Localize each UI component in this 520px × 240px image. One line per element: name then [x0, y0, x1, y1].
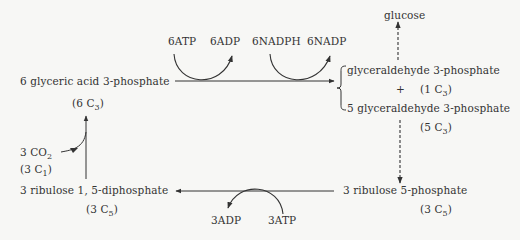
label-6adp: 6ADP: [210, 35, 240, 47]
label-co2-carbon: (3 C1): [20, 163, 52, 175]
label-rudp-carbon: (3 C5): [86, 203, 118, 215]
label-pga: 6 glyceric acid 3-phosphate: [20, 75, 170, 87]
label-ru5p: 3 ribulose 5-phosphate: [343, 184, 467, 196]
label-ru5p-carbon: (3 C5): [420, 203, 452, 215]
label-3adp: 3ADP: [211, 214, 241, 226]
label-plus: +: [396, 83, 405, 95]
label-g3p-five-carbon: (5 C3): [420, 121, 452, 133]
label-glucose: glucose: [384, 9, 425, 21]
label-g3p-five: 5 glyceraldehyde 3-phosphate: [347, 102, 510, 114]
arc-atp-adp-bottom: [228, 189, 283, 214]
label-g3p-one-carbon: (1 C3): [420, 83, 452, 95]
label-6atp: 6ATP: [168, 35, 196, 47]
label-rudp: 3 ribulose 1, 5-diphosphate: [20, 184, 168, 196]
arc-nadph-nadp: [270, 54, 330, 80]
label-6nadph: 6NADPH: [252, 35, 301, 47]
label-3atp: 3ATP: [268, 214, 296, 226]
label-six-c3: (6 C3): [72, 97, 104, 109]
label-co2: 3 CO2: [20, 146, 52, 158]
brace-g3p: [337, 66, 346, 110]
arc-atp-adp-top: [174, 54, 232, 80]
label-6nadp: 6NADP: [307, 35, 346, 47]
label-g3p-top: glyceraldehyde 3-phosphate: [347, 64, 500, 76]
